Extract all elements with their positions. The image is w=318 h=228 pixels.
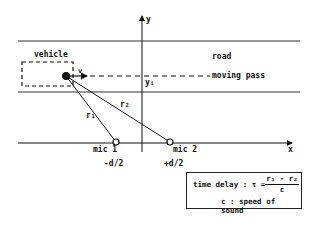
formula-note: c : speed of sound [221, 197, 301, 215]
formula-numerator: r₁ - r₂ [265, 174, 299, 185]
vehicle-label: vehicle [34, 49, 68, 59]
moving-pass-label: moving pass [212, 70, 265, 80]
road-label: road [212, 52, 231, 61]
r1-line [66, 76, 116, 142]
mic1-label: mic 1 [93, 144, 117, 154]
y-axis-label: y [146, 15, 151, 24]
formula-fraction: r₁ - r₂ c [265, 174, 299, 194]
r2-label: r₂ [120, 100, 130, 109]
formula-lhs: time delay : τ = [193, 180, 265, 189]
r1-label: r₁ [86, 111, 96, 120]
velocity-label: v [78, 67, 82, 75]
mic1-position-label: -d/2 [104, 159, 123, 168]
x-axis-label: x [288, 145, 293, 154]
mic2-label: mic 2 [173, 144, 197, 154]
yi-label: yᵢ [145, 78, 155, 87]
mic2-position-label: +d/2 [164, 159, 183, 168]
formula-denominator: c [265, 185, 299, 194]
time-delay-formula-box: time delay : τ = r₁ - r₂ c c : speed of … [186, 172, 302, 209]
sound-source-dot [62, 72, 70, 80]
